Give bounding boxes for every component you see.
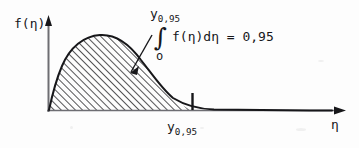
- tick-label-subscript: 0,95: [175, 126, 197, 137]
- integral-expression: f(η)dη = 0,95: [172, 30, 274, 43]
- y-axis-label: f(η): [14, 17, 45, 30]
- integral-lower-limit: o: [156, 50, 163, 62]
- upper-limit-subscript: 0,95: [158, 13, 180, 24]
- x-axis-tick-label: y0,95: [167, 120, 197, 136]
- integral-sign-icon: ∫: [154, 25, 167, 50]
- x-axis-label: η: [331, 118, 339, 131]
- integral-upper-limit: y0,95: [150, 7, 180, 23]
- tick-label-base: y: [167, 119, 175, 134]
- upper-limit-base: y: [150, 6, 158, 21]
- figure-container: f(η) η y0,95 y0,95 ∫ o f(η)dη = 0,95: [0, 0, 359, 148]
